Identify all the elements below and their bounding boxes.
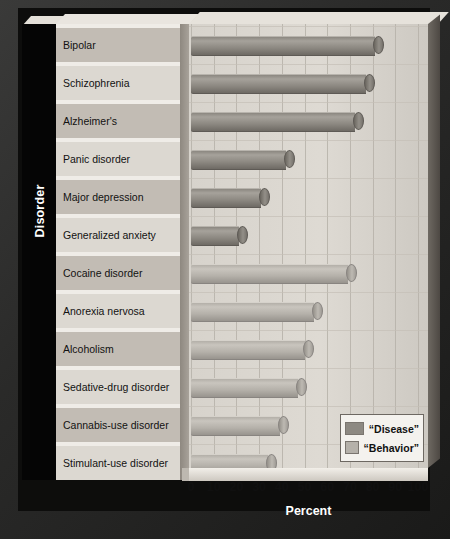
category-label: Alzheimer's	[56, 104, 180, 138]
y-axis-gutter: Disorder	[22, 24, 56, 480]
legend-swatch	[345, 441, 359, 454]
bar	[191, 150, 295, 168]
plot-top-bevel	[189, 12, 449, 24]
row-gridline	[189, 406, 428, 407]
category-label: Generalized anxiety	[56, 218, 180, 252]
x-axis-tick-label: 80	[366, 480, 380, 494]
bar-body	[191, 36, 375, 56]
x-axis-tick-label: 90	[388, 480, 402, 494]
x-axis-tick-label: 50	[298, 480, 312, 494]
bar-end-cap	[284, 150, 295, 168]
category-label: Schizophrenia	[56, 66, 180, 100]
bar-body	[191, 112, 355, 132]
bar	[191, 188, 270, 206]
y-axis-title: Disorder	[33, 141, 47, 281]
bar	[191, 226, 248, 244]
bar-end-cap	[303, 340, 314, 358]
bar-body	[191, 150, 286, 170]
category-label: Alcoholism	[56, 332, 180, 366]
bar-end-cap	[373, 36, 384, 54]
plot-area	[189, 24, 428, 468]
x-axis-tick-label: 20	[229, 480, 243, 494]
x-axis-tick-label: 0	[188, 480, 195, 494]
row-gridline	[189, 330, 428, 331]
x-axis-tick-label: 30	[252, 480, 266, 494]
legend-item: “Behavior”	[345, 439, 419, 456]
bar	[191, 340, 314, 358]
category-label: Sedative-drug disorder	[56, 370, 180, 404]
category-label-column: BipolarSchizophreniaAlzheimer'sPanic dis…	[56, 24, 180, 480]
bar-body	[191, 416, 280, 436]
bar-end-cap	[346, 264, 357, 282]
legend-swatch	[345, 422, 364, 435]
bar-body	[191, 378, 298, 398]
bar-end-cap	[353, 112, 364, 130]
bar	[191, 302, 323, 320]
x-axis-tick-label: 70	[343, 480, 357, 494]
legend-label: “Behavior”	[364, 442, 419, 454]
legend: “Disease”“Behavior”	[340, 414, 424, 462]
plot-right-wall	[428, 15, 440, 468]
gridline	[395, 24, 396, 468]
x-axis-tick-label: 40	[275, 480, 289, 494]
row-gridline	[189, 140, 428, 141]
bar-end-cap	[266, 454, 277, 468]
bar	[191, 36, 384, 54]
x-axis-tick-label: 10	[207, 480, 221, 494]
category-label: Bipolar	[56, 28, 180, 62]
bar-body	[191, 188, 261, 208]
bar-chart: Disorder BipolarSchizophreniaAlzheimer's…	[22, 10, 428, 502]
bar-body	[191, 454, 268, 468]
category-label: Panic disorder	[56, 142, 180, 176]
bar	[191, 454, 277, 468]
bar-end-cap	[296, 378, 307, 396]
bar-body	[191, 302, 314, 322]
legend-label: “Disease”	[369, 423, 419, 435]
bar-body	[191, 340, 305, 360]
row-gridline	[189, 368, 428, 369]
category-label: Cannabis-use disorder	[56, 408, 180, 442]
x-axis: 0102030405060708090100	[180, 480, 442, 500]
bar-end-cap	[312, 302, 323, 320]
legend-item: “Disease”	[345, 420, 419, 437]
bar	[191, 74, 375, 92]
row-gridline	[189, 26, 428, 27]
row-gridline	[189, 178, 428, 179]
row-gridline	[189, 216, 428, 217]
row-gridline	[189, 102, 428, 103]
category-label: Anorexia nervosa	[56, 294, 180, 328]
row-gridline	[189, 254, 428, 255]
label-column-edge	[180, 24, 189, 480]
x-axis-tick-label: 60	[320, 480, 334, 494]
bar-end-cap	[278, 416, 289, 434]
gridline	[418, 24, 419, 468]
bar-end-cap	[237, 226, 248, 244]
label-column-top-bevel	[56, 14, 199, 24]
bar-body	[191, 226, 239, 246]
x-axis-tick-label: 100	[408, 480, 429, 494]
row-gridline	[189, 64, 428, 65]
bar	[191, 112, 364, 130]
bar	[191, 378, 307, 396]
bar-body	[191, 74, 366, 94]
category-label: Major depression	[56, 180, 180, 214]
bar-body	[191, 264, 348, 284]
bar-end-cap	[259, 188, 270, 206]
category-label: Stimulant-use disorder	[56, 446, 180, 480]
category-label: Cocaine disorder	[56, 256, 180, 290]
bar	[191, 416, 289, 434]
gridline	[373, 24, 374, 468]
row-gridline	[189, 292, 428, 293]
bar	[191, 264, 357, 282]
bar-end-cap	[364, 74, 375, 92]
x-axis-title: Percent	[189, 504, 428, 518]
